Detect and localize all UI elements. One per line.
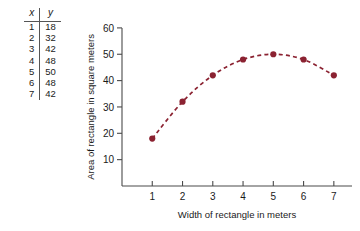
x-tick-label: 6	[301, 191, 307, 202]
y-tick-label: 40	[103, 75, 115, 86]
series-trend-line	[152, 54, 334, 138]
figure-root: x y 118232342448550648742 102030405060 1…	[0, 0, 360, 231]
data-point-marker	[149, 135, 155, 141]
table-row: 448	[24, 55, 61, 66]
y-tick-label: 50	[103, 49, 115, 60]
y-tick-label: 10	[103, 154, 115, 165]
data-point-marker	[210, 72, 216, 78]
table-row: 118	[24, 21, 61, 33]
x-axis: 1234567	[122, 181, 352, 202]
cell-y: 18	[40, 21, 61, 33]
cell-y: 50	[40, 66, 61, 77]
table-row: 232	[24, 33, 61, 44]
scatter-plot-svg: 102030405060 1234567 Width of rectangle …	[84, 0, 360, 231]
table-header-row: x y	[24, 8, 61, 21]
table-row: 342	[24, 44, 61, 55]
y-tick-label: 60	[103, 23, 115, 34]
data-point-marker	[331, 72, 337, 78]
cell-x: 2	[24, 33, 40, 44]
cell-x: 5	[24, 66, 40, 77]
data-point-marker	[270, 51, 276, 57]
cell-x: 4	[24, 55, 40, 66]
cell-x: 6	[24, 77, 40, 88]
data-point-marker	[179, 99, 185, 105]
table-row: 742	[24, 88, 61, 99]
cell-y: 42	[40, 44, 61, 55]
table-row: 648	[24, 77, 61, 88]
x-tick-label: 2	[180, 191, 186, 202]
x-tick-label: 5	[271, 191, 277, 202]
data-series	[149, 51, 337, 142]
cell-y: 48	[40, 77, 61, 88]
x-tick-label: 1	[149, 191, 155, 202]
cell-x: 3	[24, 44, 40, 55]
x-tick-label: 4	[240, 191, 246, 202]
table-body: 118232342448550648742	[24, 21, 61, 100]
cell-x: 7	[24, 88, 40, 99]
x-tick-label: 3	[210, 191, 216, 202]
chart-container: 102030405060 1234567 Width of rectangle …	[84, 0, 360, 231]
y-axis-title: Area of rectangle in square meters	[85, 34, 96, 180]
data-point-marker	[240, 56, 246, 62]
y-axis: 102030405060	[103, 23, 122, 186]
y-tick-label: 30	[103, 102, 115, 113]
data-table-container: x y 118232342448550648742	[24, 8, 80, 100]
x-tick-label: 7	[331, 191, 337, 202]
column-header-y: y	[40, 8, 61, 21]
y-tick-label: 20	[103, 128, 115, 139]
cell-y: 32	[40, 33, 61, 44]
data-point-marker	[300, 56, 306, 62]
column-header-x: x	[24, 8, 40, 21]
cell-x: 1	[24, 21, 40, 33]
xy-data-table: x y 118232342448550648742	[24, 8, 61, 100]
x-axis-title: Width of rectangle in meters	[178, 209, 297, 220]
cell-y: 42	[40, 88, 61, 99]
cell-y: 48	[40, 55, 61, 66]
table-row: 550	[24, 66, 61, 77]
